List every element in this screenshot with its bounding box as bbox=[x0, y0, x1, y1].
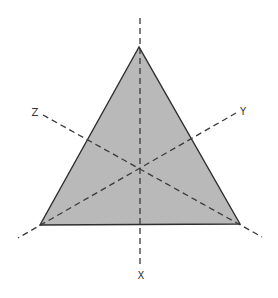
triangle-axes-diagram: X Y Z bbox=[0, 0, 278, 298]
z-axis-label: Z bbox=[32, 107, 39, 118]
y-axis-label: Y bbox=[239, 106, 247, 117]
x-axis-label: X bbox=[138, 270, 145, 281]
